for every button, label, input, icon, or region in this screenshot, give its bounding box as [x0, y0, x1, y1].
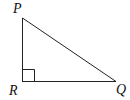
vertex-label-p: P	[12, 1, 22, 16]
vertex-label-r: R	[8, 83, 18, 98]
edge-pq-hypotenuse	[23, 18, 117, 82]
right-angle-marker	[23, 70, 35, 82]
triangle-diagram: P R Q	[0, 0, 130, 100]
vertex-label-q: Q	[116, 82, 126, 97]
